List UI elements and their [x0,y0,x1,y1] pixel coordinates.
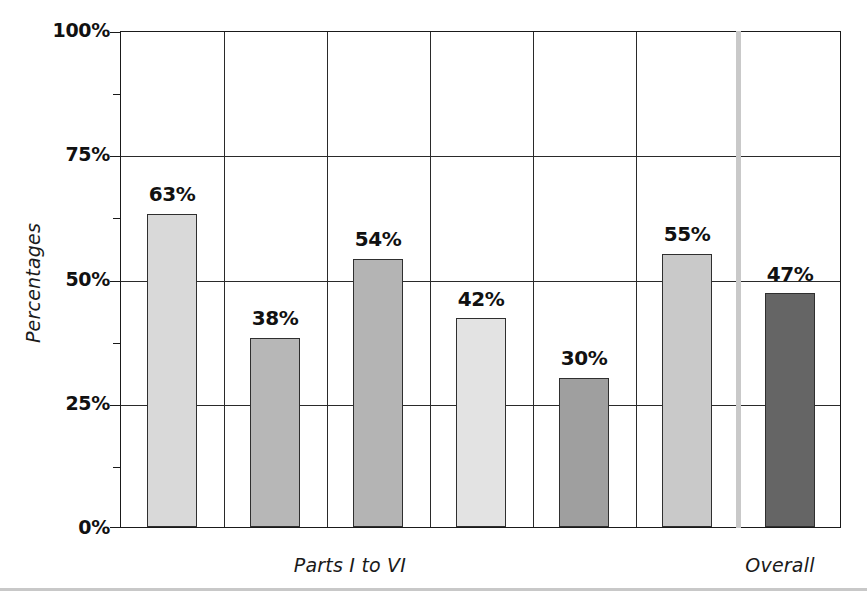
y-minor-tick-87 [113,94,121,95]
bar-label-overall: 47% [755,262,825,286]
y-major-tick-0 [110,527,121,528]
y-tick-label-25: 25% [34,392,110,414]
y-minor-tick-12 [113,467,121,468]
x-group-label-overall: Overall [700,554,860,576]
y-major-tick-75 [110,156,121,157]
bar-part-5[interactable] [559,378,609,527]
gridline-50 [121,281,840,282]
bar-chart-figure: Percentages 100% 75% 50% 25% 0% [0,0,867,598]
bar-label-part-6: 55% [652,222,722,246]
bar-part-3[interactable] [353,259,403,527]
bar-part-6[interactable] [662,254,712,527]
y-tick-label-50: 50% [34,268,110,290]
plot-area: 63% 38% 54% 42% 30% 55% 47% [120,31,841,528]
gridline-75 [121,156,840,157]
group-separator [736,31,741,528]
bar-label-part-5: 30% [549,346,619,370]
bottom-divider [0,588,867,591]
y-major-tick-100 [110,32,121,33]
y-tick-label-100: 100% [34,19,110,41]
bar-overall[interactable] [765,293,815,527]
bar-part-4[interactable] [456,318,506,527]
bar-label-part-3: 54% [343,227,413,251]
y-minor-tick-37 [113,343,121,344]
category-divider-2 [327,32,328,527]
y-minor-tick-62 [113,218,121,219]
bar-label-part-1: 63% [137,182,207,206]
y-tick-label-0: 0% [34,516,110,538]
y-major-tick-50 [110,281,121,282]
category-divider-3 [430,32,431,527]
bar-label-part-4: 42% [446,287,516,311]
category-divider-1 [224,32,225,527]
y-major-tick-25 [110,405,121,406]
category-divider-4 [533,32,534,527]
category-divider-5 [636,32,637,527]
bar-label-part-2: 38% [240,306,310,330]
bar-part-2[interactable] [250,338,300,527]
x-group-label-parts: Parts I to VI [250,554,450,576]
y-tick-label-75: 75% [34,143,110,165]
bar-part-1[interactable] [147,214,197,527]
